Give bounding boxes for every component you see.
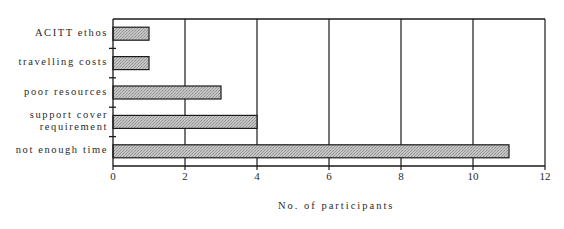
x-tick-label: 6 [319, 170, 339, 182]
x-tick-label: 12 [535, 170, 555, 182]
category-label: not enough time [16, 144, 108, 156]
x-tick-label: 10 [463, 170, 483, 182]
category-label: travelling costs [19, 56, 108, 68]
bar [113, 145, 509, 158]
category-label: poor resources [24, 86, 108, 98]
x-tick-label: 0 [103, 170, 123, 182]
x-axis-title: No. of participants [278, 200, 394, 211]
category-label: support coverrequirement [30, 109, 108, 133]
x-tick-label: 4 [247, 170, 267, 182]
bar [113, 86, 221, 99]
bar [113, 57, 149, 70]
bar-chart: ACITT ethostravelling costspoor resource… [0, 0, 564, 229]
bar [113, 27, 149, 40]
bar [113, 115, 257, 128]
x-tick-label: 2 [175, 170, 195, 182]
category-label: ACITT ethos [35, 27, 108, 39]
bars [113, 27, 509, 158]
x-tick-label: 8 [391, 170, 411, 182]
gridlines [185, 19, 545, 166]
